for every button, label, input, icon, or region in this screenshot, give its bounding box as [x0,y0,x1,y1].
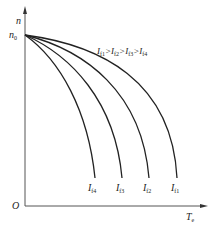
speed-torque-diagram: n n0 O Te If1>If2>If3>If4 If4 If3 If2 If… [0,0,216,231]
y-axis-arrow-icon [23,6,27,14]
x-axis-label: Te [186,212,194,225]
origin-label: O [12,201,19,211]
diagram-graphics [0,0,216,231]
x-axis-arrow-icon [200,204,208,208]
current-relation-label: If1>If2>If3>If4 [97,46,147,59]
curve-label-if3: If3 [116,183,124,196]
curve-label-if1: If1 [171,183,179,196]
curve-label-if4: If4 [88,183,96,196]
curve-label-if2: If2 [143,183,151,196]
n0-label: n0 [9,30,17,43]
y-axis-label: n [16,16,21,26]
